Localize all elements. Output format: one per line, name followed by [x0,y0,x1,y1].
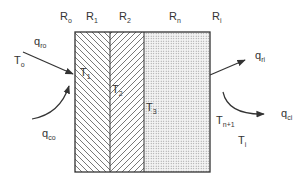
label-Tn1: Tn+1 [216,114,235,128]
arrow-qri [210,60,245,75]
wall [75,32,210,172]
resistance-labels: Ro R1 R2 Rn Ri [60,10,222,24]
label-To: To [14,54,25,68]
label-R1: R1 [86,10,98,24]
label-qci: qci [281,107,293,121]
layer-n [144,32,210,172]
label-qri: qri [255,49,265,63]
wall-heat-transfer-diagram: Ro R1 R2 Rn Ri To T1 T2 T3 Tn+1 Ti qro q… [0,0,304,182]
label-R2: R2 [119,10,131,24]
arrow-qci [223,92,264,114]
layer-1 [75,32,110,172]
label-qro: qro [34,35,46,49]
arrow-qco [32,86,69,119]
layer-2 [110,32,144,172]
arrow-qro [23,52,73,74]
label-Rn: Rn [169,10,181,24]
label-qco: qco [42,127,56,141]
label-Ri: Ri [212,10,222,24]
label-Ro: Ro [60,10,72,24]
label-Ti: Ti [238,134,247,148]
